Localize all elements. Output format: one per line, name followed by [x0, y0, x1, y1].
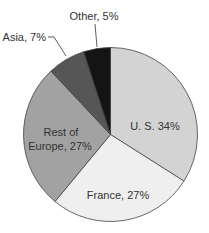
- label-asia: Asia, 7%: [3, 31, 47, 43]
- label-us: U. S. 34%: [130, 120, 180, 132]
- other-leader-line: [95, 24, 97, 47]
- label-other: Other, 5%: [70, 10, 119, 22]
- label-rest-of-europe-line2: Europe, 27%: [28, 140, 92, 152]
- label-rest-of-europe-line1: Rest of: [44, 126, 80, 138]
- asia-leader-line: [48, 37, 66, 56]
- pie-chart: U. S. 34% France, 27% Rest of Europe, 27…: [0, 0, 209, 233]
- label-france: France, 27%: [87, 189, 150, 201]
